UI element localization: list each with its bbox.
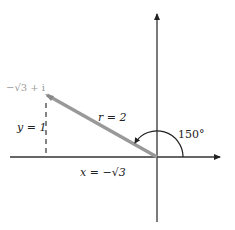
- angle-label: 150°: [178, 128, 205, 141]
- y-component-label: y = 1: [16, 121, 46, 134]
- point-label: −√3 + i: [6, 82, 45, 93]
- radius-vector: [47, 95, 157, 157]
- radius-label: r = 2: [98, 111, 126, 124]
- x-component-label: x = −√3: [80, 166, 126, 179]
- complex-plane-diagram: −√3 + i r = 2 y = 1 x = −√3 150°: [0, 0, 235, 230]
- angle-arc: [135, 131, 183, 157]
